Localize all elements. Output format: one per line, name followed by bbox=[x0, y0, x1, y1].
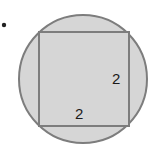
side-length-label-right: 2 bbox=[112, 70, 120, 87]
inscribed-square-diagram: 2 2 bbox=[0, 0, 150, 151]
bullet-marker bbox=[2, 23, 6, 27]
side-length-label-bottom: 2 bbox=[75, 105, 83, 122]
